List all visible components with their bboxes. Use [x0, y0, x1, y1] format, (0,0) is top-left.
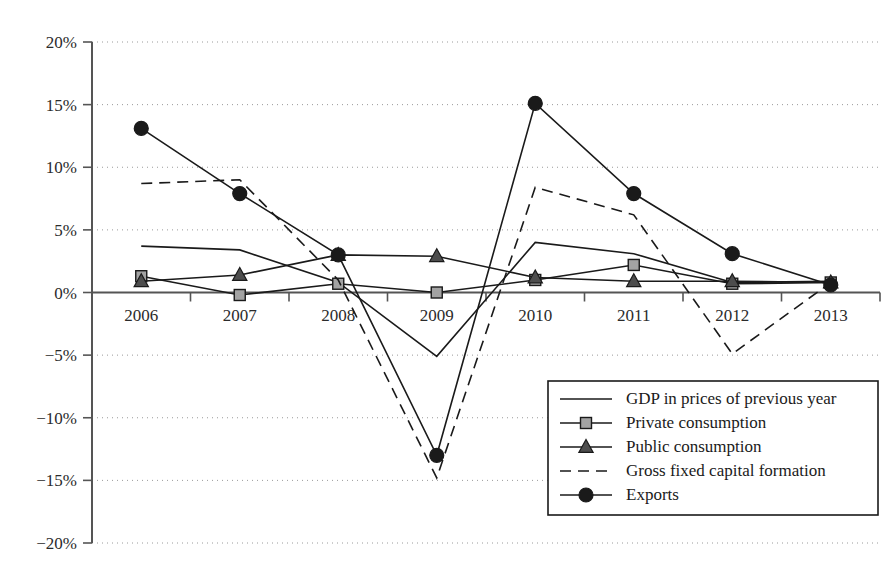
data-point-marker-circle: [233, 187, 247, 201]
data-point-marker-square: [628, 259, 639, 270]
y-axis-tick-label: 20%: [46, 33, 77, 52]
y-axis-tick-label: −15%: [36, 471, 77, 490]
line-chart: 20%15%10%5%0%−5%−10%−15%−20% 20062007200…: [0, 0, 888, 569]
data-point-marker-circle: [627, 187, 641, 201]
y-axis-labels-group: 20%15%10%5%0%−5%−10%−15%−20%: [36, 33, 77, 553]
legend-label: Private consumption: [626, 413, 767, 432]
y-axis-tick-label: 5%: [54, 221, 77, 240]
data-point-marker-triangle: [627, 274, 641, 287]
y-axis-tick-label: −5%: [45, 346, 77, 365]
y-axis-tick-label: −10%: [36, 409, 77, 428]
chart-container: 20%15%10%5%0%−5%−10%−15%−20% 20062007200…: [0, 0, 888, 569]
legend-label: GDP in prices of previous year: [626, 389, 837, 408]
y-axis-tick-label: 10%: [46, 158, 77, 177]
data-point-marker-circle: [725, 247, 739, 261]
y-axis-tick-label: 0%: [54, 284, 77, 303]
x-axis-tick-label: 2009: [420, 306, 454, 325]
x-axis-labels-group: 20062007200820092010201120122013: [124, 306, 848, 325]
x-axis-tick-label: 2008: [321, 306, 355, 325]
data-point-marker-circle: [134, 121, 148, 135]
x-axis-tick-label: 2006: [124, 306, 158, 325]
y-axis-tick-label: 15%: [46, 96, 77, 115]
data-point-marker-square: [234, 290, 245, 301]
data-point-marker-square: [581, 418, 592, 429]
x-axis-tick-label: 2007: [223, 306, 258, 325]
data-point-marker-circle: [824, 278, 838, 292]
chart-legend: GDP in prices of previous yearPrivate co…: [548, 381, 878, 515]
data-point-marker-circle: [430, 448, 444, 462]
data-point-marker-square: [431, 287, 442, 298]
data-point-marker-circle: [331, 248, 345, 262]
legend-label: Gross fixed capital formation: [626, 461, 826, 480]
y-axis-tick-label: −20%: [36, 534, 77, 553]
x-axis-tick-label: 2011: [617, 306, 650, 325]
legend-label: Public consumption: [626, 437, 762, 456]
x-axis-tick-label: 2010: [518, 306, 552, 325]
data-point-marker-circle: [579, 488, 593, 502]
data-point-marker-triangle: [430, 249, 444, 262]
x-axis-tick-label: 2013: [814, 306, 848, 325]
y-axis-ticks-group: [83, 42, 92, 543]
x-axis-tick-label: 2012: [715, 306, 749, 325]
data-point-marker-circle: [528, 96, 542, 110]
legend-label: Exports: [626, 485, 679, 504]
